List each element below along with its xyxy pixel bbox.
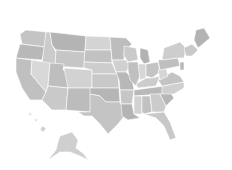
state-ny xyxy=(162,42,186,60)
state-ar xyxy=(120,90,134,104)
state-sd xyxy=(84,50,112,63)
us-map xyxy=(0,0,232,170)
state-nm xyxy=(66,88,92,112)
state-hi2 xyxy=(34,118,38,122)
state-nj xyxy=(180,62,184,70)
state-co xyxy=(64,68,92,88)
state-mi xyxy=(140,48,150,64)
state-ne-states xyxy=(184,44,198,56)
state-pa xyxy=(158,58,180,70)
state-wi xyxy=(124,46,138,62)
state-ks xyxy=(92,74,119,88)
state-mt xyxy=(50,32,86,52)
state-nd xyxy=(85,36,111,50)
state-hi1 xyxy=(28,112,32,116)
state-hi3 xyxy=(40,126,46,132)
state-ms xyxy=(134,96,142,114)
state-or xyxy=(16,44,45,60)
state-me xyxy=(194,28,210,48)
state-fl xyxy=(144,112,176,140)
state-ak xyxy=(48,132,88,160)
